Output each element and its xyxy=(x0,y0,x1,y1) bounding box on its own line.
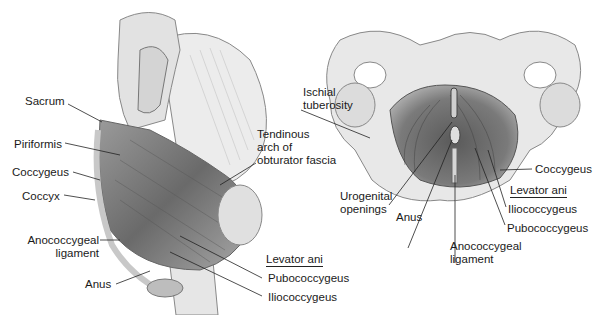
label-tendinous-arch: Tendinous arch of obturator fascia xyxy=(257,128,336,167)
label-anus-left: Anus xyxy=(85,278,111,291)
label-sacrum: Sacrum xyxy=(25,95,65,108)
label-pubococcygeus-right: Pubococcygeus xyxy=(507,222,588,235)
label-anococcygeal-ligament-right: Anococcygeal ligament xyxy=(450,240,522,266)
label-line: Anococcygeal xyxy=(24,234,99,247)
label-line: obturator fascia xyxy=(257,154,336,167)
label-iliococcygeus-left: Iliococcygeus xyxy=(268,291,337,304)
levator-ani-heading: Levator ani xyxy=(510,184,567,198)
label-coccygeus-left: Coccygeus xyxy=(12,166,69,179)
levator-ani-heading: Levator ani xyxy=(266,253,323,267)
label-line: tuberosity xyxy=(303,99,353,112)
label-line: Tendinous xyxy=(257,128,336,141)
label-coccygeus-right: Coccygeus xyxy=(535,163,592,176)
label-coccyx: Coccyx xyxy=(22,190,60,203)
lateral-pelvis-view xyxy=(97,13,267,315)
label-piriformis: Piriformis xyxy=(14,138,62,151)
label-pubococcygeus-left: Pubococcygeus xyxy=(268,272,349,285)
label-line: Anococcygeal xyxy=(450,240,522,253)
label-line: openings xyxy=(340,203,392,216)
label-levator-ani-right: Levator ani xyxy=(510,184,567,197)
label-line: ligament xyxy=(450,253,522,266)
label-ischial-tuberosity: Ischial tuberosity xyxy=(303,86,353,112)
label-line: arch of xyxy=(257,141,336,154)
label-anus-right: Anus xyxy=(396,211,422,224)
label-line: Ischial xyxy=(303,86,353,99)
label-urogenital-openings: Urogenital openings xyxy=(340,190,392,216)
label-line: ligament xyxy=(24,247,99,260)
label-anococcygeal-ligament-left: Anococcygeal ligament xyxy=(24,234,99,260)
label-iliococcygeus-right: Iliococcygeus xyxy=(508,203,577,216)
label-levator-ani-left: Levator ani xyxy=(266,253,323,266)
label-line: Urogenital xyxy=(340,190,392,203)
